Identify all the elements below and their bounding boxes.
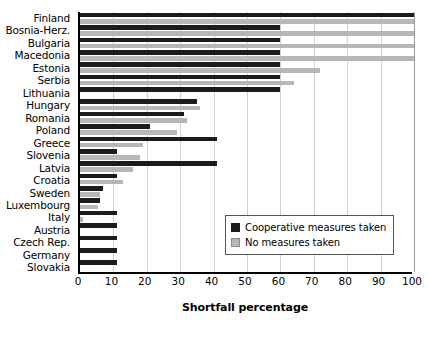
chart-legend: Cooperative measures takenNo measures ta… [225, 215, 394, 255]
bar [80, 211, 117, 216]
y-axis-category-labels: FinlandBosnia-Herz.BulgariaMacedoniaEsto… [0, 12, 74, 274]
bar-group [80, 62, 412, 74]
x-axis-tick-label: 80 [339, 276, 352, 287]
bar [80, 62, 280, 67]
bar [80, 137, 217, 142]
bar [80, 118, 187, 123]
bar [80, 149, 117, 154]
bar-group [80, 86, 412, 98]
bar [80, 106, 200, 111]
bar [80, 167, 133, 172]
bar [80, 44, 414, 49]
y-axis-label: Italy [0, 212, 74, 224]
bar [80, 174, 117, 179]
x-axis-tick-label: 60 [272, 276, 285, 287]
bar [80, 38, 280, 43]
bar-group [80, 37, 412, 49]
bar-group [80, 123, 412, 135]
y-axis-label: Slovenia [0, 149, 74, 161]
bar [80, 186, 103, 191]
bar [80, 217, 83, 222]
bar [80, 198, 100, 203]
x-axis-tick-label: 30 [172, 276, 185, 287]
bar-group [80, 74, 412, 86]
bar [80, 192, 100, 197]
bar [80, 248, 117, 253]
x-axis-tick-labels: 0102030405060708090100 [78, 276, 412, 292]
y-axis-label: Luxembourg [0, 199, 74, 211]
bar [80, 205, 98, 210]
bar [80, 260, 117, 265]
y-axis-label: Latvia [0, 162, 74, 174]
y-axis-label: Estonia [0, 62, 74, 74]
bar-group [80, 173, 412, 185]
x-axis-tick-label: 40 [205, 276, 218, 287]
bar-group [80, 161, 412, 173]
y-axis-label: Bulgaria [0, 37, 74, 49]
bar-group [80, 24, 412, 36]
bar [80, 124, 150, 129]
y-axis-label: Bosnia-Herz. [0, 24, 74, 36]
x-axis-tick-label: 0 [75, 276, 82, 287]
x-axis-tick-label: 10 [105, 276, 118, 287]
bar [80, 68, 320, 73]
bar-group [80, 260, 412, 272]
y-axis-label: Czech Rep. [0, 236, 74, 248]
legend-swatch-dark [231, 223, 240, 232]
bar [80, 75, 280, 80]
bar [80, 31, 414, 36]
y-axis-label: Hungary [0, 99, 74, 111]
y-axis-label: Macedonia [0, 49, 74, 61]
legend-label: Cooperative measures taken [245, 223, 386, 233]
bar-group [80, 136, 412, 148]
x-axis-tick-label: 90 [372, 276, 385, 287]
gridline [414, 12, 415, 272]
bar [80, 112, 184, 117]
x-axis-tick-label: 70 [305, 276, 318, 287]
legend-item: Cooperative measures taken [231, 220, 386, 235]
bar-group [80, 198, 412, 210]
y-axis-label: Lithuania [0, 87, 74, 99]
bar [80, 161, 217, 166]
bar [80, 25, 280, 30]
bar-group [80, 185, 412, 197]
shortfall-percentage-bar-chart: FinlandBosnia-Herz.BulgariaMacedoniaEsto… [0, 0, 429, 338]
y-axis-label: Romania [0, 112, 74, 124]
y-axis-label: Sweden [0, 187, 74, 199]
bar-group [80, 49, 412, 61]
bar [80, 50, 280, 55]
bar [80, 180, 123, 185]
y-axis-label: Finland [0, 12, 74, 24]
bar [80, 19, 414, 24]
bar [80, 236, 117, 241]
bar [80, 87, 280, 92]
bar [80, 56, 414, 61]
bar [80, 155, 140, 160]
y-axis-label: Croatia [0, 174, 74, 186]
legend-swatch-light [231, 238, 240, 247]
x-axis-title: Shortfall percentage [78, 301, 412, 314]
bar [80, 130, 177, 135]
legend-item: No measures taken [231, 235, 386, 250]
bar [80, 223, 117, 228]
bar [80, 143, 143, 148]
x-axis-tick-label: 50 [238, 276, 251, 287]
y-axis-label: Greece [0, 137, 74, 149]
y-axis-label: Slovakia [0, 261, 74, 273]
bar [80, 81, 294, 86]
y-axis-label: Austria [0, 224, 74, 236]
bar-group [80, 148, 412, 160]
y-axis-label: Serbia [0, 74, 74, 86]
x-axis-tick-label: 100 [402, 276, 422, 287]
bar-group [80, 99, 412, 111]
bar-group [80, 111, 412, 123]
bar-group [80, 12, 412, 24]
x-axis-tick-label: 20 [138, 276, 151, 287]
bar [80, 13, 414, 18]
legend-label: No measures taken [245, 238, 340, 248]
bar [80, 99, 197, 104]
y-axis-label: Germany [0, 249, 74, 261]
y-axis-label: Poland [0, 124, 74, 136]
